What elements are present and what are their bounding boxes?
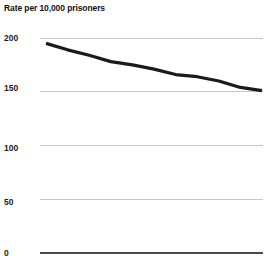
gridlines (40, 38, 263, 199)
chart-container: Rate per 10,000 prisoners 200 150 100 50… (0, 0, 269, 269)
plot-area (0, 0, 269, 269)
data-line-series-0 (46, 43, 262, 90)
data-series-group (46, 43, 262, 90)
